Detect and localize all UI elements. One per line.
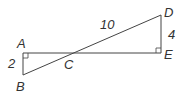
point-label-E: E <box>164 47 173 62</box>
right-angle-marker-E <box>156 48 161 53</box>
point-label-D: D <box>164 5 173 20</box>
segment-BD <box>23 15 161 75</box>
measure-CD: 10 <box>100 17 115 32</box>
right-angle-marker-A <box>23 53 28 58</box>
point-label-A: A <box>16 36 26 51</box>
measure-AB: 2 <box>7 56 16 71</box>
point-label-C: C <box>64 57 74 72</box>
point-label-B: B <box>16 79 25 94</box>
measure-DE: 4 <box>168 27 175 42</box>
geometry-diagram: A B C D E 2 10 4 <box>0 0 185 95</box>
